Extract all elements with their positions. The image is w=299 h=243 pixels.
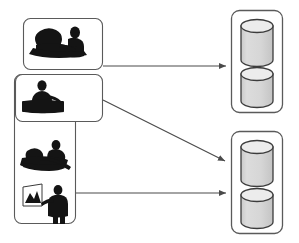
database-cylinder bbox=[241, 189, 273, 229]
meeting-group-box[interactable] bbox=[24, 19, 103, 70]
desk-inner-box[interactable] bbox=[16, 75, 103, 122]
diagram-canvas bbox=[0, 0, 299, 243]
diagram-svg bbox=[0, 0, 299, 243]
database-cylinder bbox=[241, 68, 273, 108]
people-reclining-icon bbox=[20, 140, 71, 171]
database-cylinder bbox=[241, 141, 273, 187]
presenter-chart-icon bbox=[23, 184, 68, 224]
arrow-desk-to-bottom-store bbox=[103, 100, 225, 161]
database-cylinder bbox=[241, 20, 273, 67]
